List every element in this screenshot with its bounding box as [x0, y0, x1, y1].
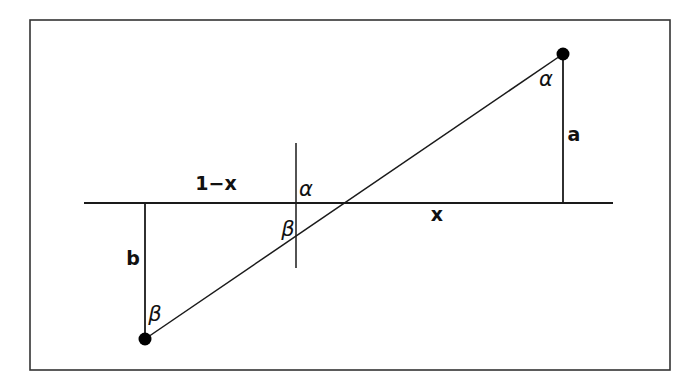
label-beta-bottom: β: [147, 302, 161, 326]
figure-border: [30, 20, 670, 370]
label-x: x: [431, 203, 443, 225]
label-a: a: [568, 123, 581, 145]
lower-endpoint-dot: [139, 333, 152, 346]
label-one-minus-x: 1−x: [195, 172, 236, 194]
label-alpha-top: α: [539, 67, 553, 91]
geometry-figure: 1−x x a b α α β β: [0, 0, 694, 387]
figure-canvas: 1−x x a b α α β β: [0, 0, 694, 387]
upper-endpoint-dot: [557, 48, 570, 61]
slanted-ray-line: [145, 54, 563, 339]
label-b: b: [126, 247, 140, 269]
label-beta-center: β: [280, 217, 294, 241]
label-alpha-center: α: [299, 177, 313, 201]
